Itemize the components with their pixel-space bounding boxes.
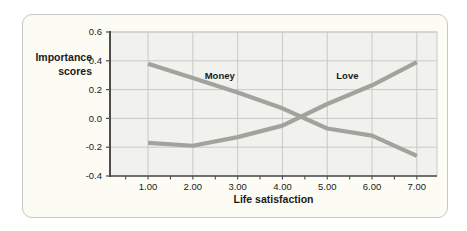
svg-text:1.00: 1.00 xyxy=(139,181,158,192)
svg-text:3.00: 3.00 xyxy=(228,181,247,192)
x-axis-title: Life satisfaction xyxy=(110,193,437,205)
svg-text:2.00: 2.00 xyxy=(184,181,203,192)
series-label-money: Money xyxy=(205,70,235,81)
svg-text:-0.2: -0.2 xyxy=(86,141,102,152)
svg-text:0.2: 0.2 xyxy=(89,84,102,95)
svg-text:0.0: 0.0 xyxy=(89,113,102,124)
svg-text:7.00: 7.00 xyxy=(408,181,427,192)
svg-text:0.6: 0.6 xyxy=(89,26,102,37)
svg-text:4.00: 4.00 xyxy=(273,181,292,192)
y-axis-title: Importance scores xyxy=(20,50,92,78)
svg-text:5.00: 5.00 xyxy=(318,181,337,192)
y-axis-title-line2: scores xyxy=(20,64,92,78)
svg-text:6.00: 6.00 xyxy=(363,181,382,192)
series-label-love: Love xyxy=(336,70,358,81)
figure: 0.60.40.20.0-0.2-0.41.002.003.004.005.00… xyxy=(0,0,467,231)
y-axis-title-line1: Importance xyxy=(20,50,92,64)
svg-text:-0.4: -0.4 xyxy=(86,170,102,181)
